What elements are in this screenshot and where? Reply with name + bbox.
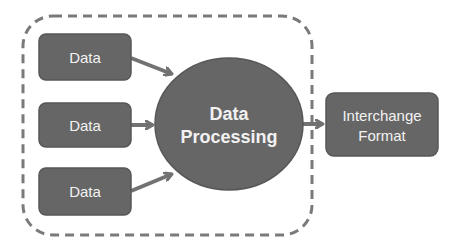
diagram-canvas: Data Data Data Data Processing Interchan… (0, 0, 461, 251)
processor-node: Data Processing (155, 58, 303, 190)
input-node-2: Data (39, 103, 131, 147)
input-node-1-label: Data (69, 49, 101, 66)
input-node-3: Data (39, 168, 131, 215)
input-node-1: Data (39, 34, 131, 80)
output-node: Interchange Format (326, 93, 438, 156)
processor-label-line2: Processing (180, 127, 277, 147)
output-label-line1: Interchange (342, 107, 421, 124)
output-label-line2: Format (358, 127, 406, 144)
input-node-2-label: Data (69, 117, 101, 134)
processor-label-line1: Data (209, 104, 249, 124)
arrow-input-1-to-processor (131, 58, 172, 74)
input-node-3-label: Data (69, 183, 101, 200)
arrow-input-3-to-processor (131, 174, 172, 191)
